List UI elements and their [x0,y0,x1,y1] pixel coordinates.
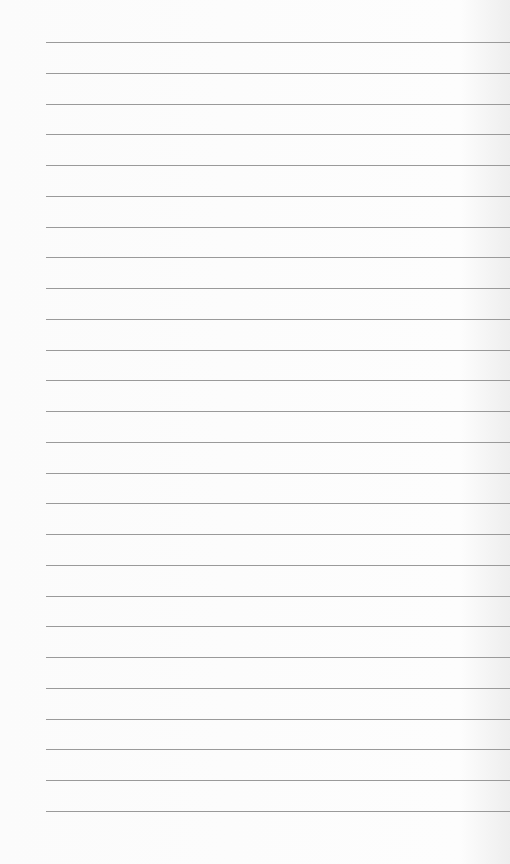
ruled-line [46,503,510,504]
ruled-line [46,688,510,689]
ruled-line [46,719,510,720]
ruled-line [46,749,510,750]
ruled-line [46,626,510,627]
ruled-line [46,657,510,658]
ruled-line [46,780,510,781]
ruled-line [46,288,510,289]
ruled-line [46,104,510,105]
ruled-line [46,73,510,74]
ruled-line [46,196,510,197]
ruled-line [46,442,510,443]
ruled-line [46,411,510,412]
ruled-line [46,380,510,381]
ruled-line [46,350,510,351]
ruled-line [46,473,510,474]
ruled-line [46,165,510,166]
ruled-line [46,257,510,258]
ruled-line [46,565,510,566]
ruled-line [46,319,510,320]
ruled-line [46,227,510,228]
ruled-line [46,42,510,43]
ruled-line [46,534,510,535]
ruled-line [46,134,510,135]
ruled-line [46,811,510,812]
ruled-line [46,596,510,597]
lined-paper-page [0,0,510,864]
